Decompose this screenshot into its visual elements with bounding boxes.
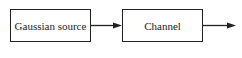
connector-arrows: [0, 0, 242, 58]
arrow-source-to-channel: [91, 23, 122, 29]
arrow-channel-output: [203, 23, 236, 29]
